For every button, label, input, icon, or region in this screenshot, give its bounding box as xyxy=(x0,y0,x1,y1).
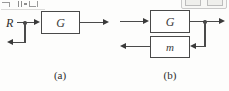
diagram-b-feedback-output-arrowhead xyxy=(120,43,126,49)
diagram-b-output-wire xyxy=(206,21,220,22)
figure-canvas: R G (a) G m (b) xyxy=(0,0,229,91)
diagram-a-output-arrowhead xyxy=(103,19,109,25)
diagram-a-block-g-label: G xyxy=(56,17,65,29)
toolbar-fragment-tick xyxy=(24,3,27,5)
widget-cell xyxy=(207,0,223,6)
toolbar-fragment-tick xyxy=(21,1,22,7)
toolbar-fragment-mark xyxy=(9,2,10,7)
diagram-b-feedback-drop xyxy=(204,21,205,47)
diagram-b-block-m: m xyxy=(150,36,190,58)
diagram-a-feedback-arrowhead xyxy=(7,39,13,45)
diagram-b-block-m-label: m xyxy=(166,42,174,53)
diagram-b-input-arrowhead xyxy=(143,18,149,24)
toolbar-fragment-tick xyxy=(18,1,19,7)
cropped-toolbar-fragments xyxy=(0,0,229,11)
widget-cell xyxy=(185,0,201,6)
toolbar-fragment-mark xyxy=(37,1,38,7)
diagram-b-block-g-label: G xyxy=(166,16,175,28)
diagram-a-block-g: G xyxy=(41,11,80,34)
toolbar-fragment-underline xyxy=(1,9,45,10)
diagram-b-input-wire xyxy=(120,21,144,22)
diagram-a-feedback-wire xyxy=(13,42,25,43)
diagram-a-caption: (a) xyxy=(45,70,75,81)
diagram-a-feedback-drop xyxy=(24,22,25,43)
diagram-a-input-label: R xyxy=(6,17,13,29)
diagram-a-output-wire xyxy=(80,22,104,23)
diagram-b-feedback-return-arrowhead xyxy=(190,43,196,49)
toolbar-fragment-mark xyxy=(29,6,36,7)
diagram-b-feedback-return-wire xyxy=(196,46,205,47)
diagram-b-output-arrowhead xyxy=(219,18,225,24)
diagram-b-feedback-output-wire xyxy=(126,46,150,47)
cropped-toolbar-widget[interactable] xyxy=(181,0,227,9)
diagram-a-forward-arrowhead xyxy=(34,19,40,25)
diagram-b-block-g: G xyxy=(150,10,190,33)
diagram-b-caption: (b) xyxy=(155,70,185,81)
